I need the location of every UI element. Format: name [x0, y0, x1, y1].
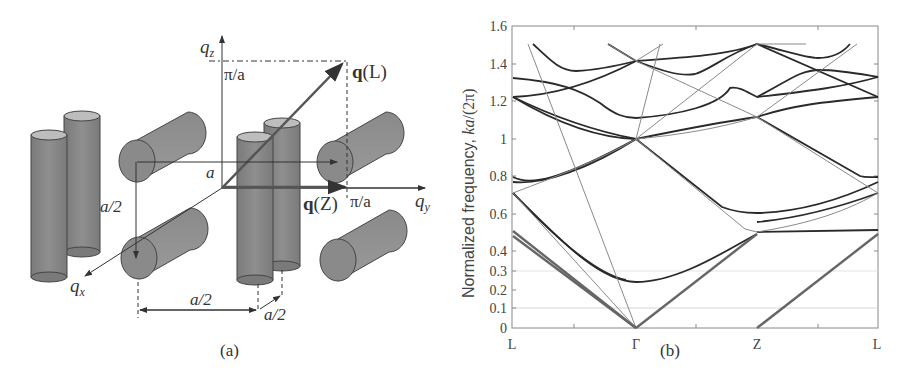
svg-text:1.4: 1.4: [490, 57, 508, 72]
horizontal-cylinder-upper-left: [119, 112, 206, 182]
vertical-cylinder: [64, 111, 100, 257]
panel-b-band-diagram: 1.6 1.4 1.2 1 0.8 0.6 0.4 0.3 0.2 0.1 0 …: [460, 19, 881, 360]
svg-text:0.8: 0.8: [490, 169, 508, 184]
qZ-label: q(Z): [303, 193, 338, 215]
qy-label: qy: [415, 190, 431, 214]
pi-over-a-z-label: π/a: [224, 65, 245, 84]
a-half-diagonal-label: a/2: [264, 305, 286, 324]
svg-text:0: 0: [500, 321, 507, 336]
horizontal-cylinder-upper-right: [317, 112, 404, 183]
qx-label: qx: [70, 275, 86, 299]
horizontal-cylinder-lower-right: [320, 210, 407, 281]
pi-over-a-y-label: π/a: [350, 192, 371, 211]
svg-text:L: L: [508, 337, 517, 352]
svg-text:0.6: 0.6: [490, 207, 508, 222]
panel-a-caption: (a): [220, 341, 239, 360]
svg-text:1: 1: [500, 132, 507, 147]
a-label: a: [206, 163, 215, 182]
y-axis-label: Normalized frequency, ka/(2π): [460, 88, 478, 298]
svg-text:1.6: 1.6: [490, 19, 508, 34]
svg-text:Z: Z: [753, 337, 762, 352]
svg-text:L: L: [873, 337, 882, 352]
bands-dark: [513, 44, 878, 282]
panel-b-caption: (b): [660, 341, 680, 360]
a-half-horizontal-label: a/2: [190, 290, 212, 309]
y-tick-labels: 1.6 1.4 1.2 1 0.8 0.6 0.4 0.3 0.2 0.1 0: [490, 19, 508, 336]
horizontal-cylinder-lower-left: [121, 208, 208, 279]
qz-label: qz: [200, 36, 215, 60]
vertical-cylinder: [31, 130, 67, 282]
svg-text:0.1: 0.1: [490, 301, 508, 316]
svg-text:1.2: 1.2: [490, 94, 508, 109]
x-tick-labels: L Γ Z L: [508, 337, 882, 352]
svg-text:Γ: Γ: [632, 337, 640, 352]
qL-label: q(L): [352, 61, 387, 83]
svg-text:0.4: 0.4: [490, 244, 508, 259]
svg-text:0.3: 0.3: [490, 264, 508, 279]
a-half-vertical-label: a/2: [100, 197, 122, 216]
figure: qz π/a q(L) a a/2 q(Z) π/a qy qx a/2 a/2…: [0, 0, 908, 377]
svg-text:0.2: 0.2: [490, 283, 508, 298]
panel-a-diagram: qz π/a q(L) a a/2 q(Z) π/a qy qx a/2 a/2…: [31, 36, 431, 360]
